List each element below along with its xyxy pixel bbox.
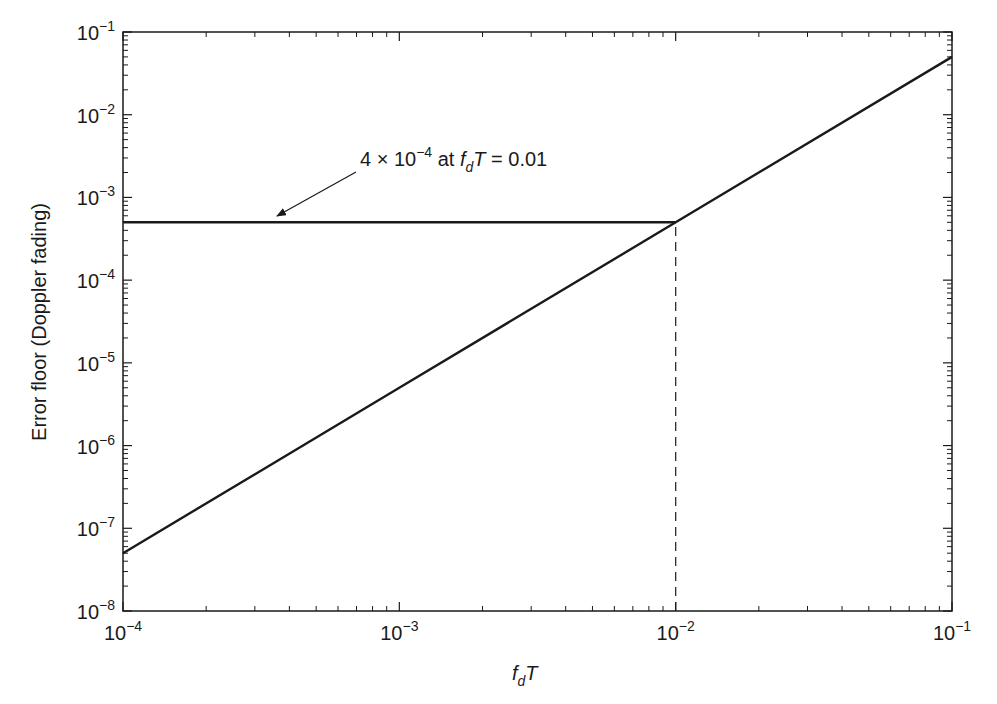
y-tick-labels: 10−810−710−610−510−410−310−210−1 [77, 18, 115, 623]
annotation-text: 4 × 10−4 at fdT = 0.01 [360, 144, 547, 175]
major-ticks [123, 32, 952, 611]
x-tick-label: 10−3 [380, 618, 418, 644]
y-tick-label: 10−3 [77, 183, 115, 209]
y-tick-label: 10−1 [77, 18, 115, 44]
x-tick-labels: 10−410−310−210−1 [104, 618, 971, 644]
minor-ticks [123, 32, 952, 611]
annotation-arrow [277, 172, 356, 216]
y-axis-title: Error floor (Doppler fading) [28, 203, 50, 441]
y-tick-label: 10−6 [77, 432, 115, 458]
annotation: 4 × 10−4 at fdT = 0.01 [277, 144, 547, 216]
error-floor-chart: 10−410−310−210−1 10−810−710−610−510−410−… [0, 0, 997, 704]
plot-frame [123, 32, 952, 611]
y-tick-label: 10−2 [77, 101, 115, 127]
series-lines [123, 57, 952, 611]
x-axis-title: fdT [512, 662, 539, 689]
y-tick-label: 10−4 [77, 266, 115, 292]
y-tick-label: 10−8 [77, 597, 115, 623]
y-tick-label: 10−7 [77, 514, 115, 540]
x-tick-label: 10−4 [104, 618, 142, 644]
y-tick-label: 10−5 [77, 349, 115, 375]
series-line-0 [123, 57, 952, 553]
x-tick-label: 10−2 [657, 618, 695, 644]
x-tick-label: 10−1 [933, 618, 971, 644]
